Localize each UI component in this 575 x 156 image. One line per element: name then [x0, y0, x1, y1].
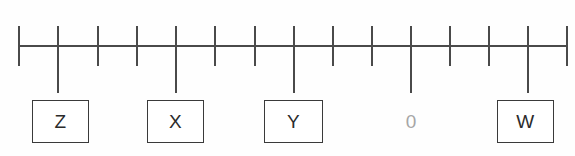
x-label-box-text: X [169, 111, 182, 133]
y-label-box: Y [264, 100, 323, 143]
w-label-box: W [497, 100, 554, 143]
number-line-figure: ZXYW 0 [0, 0, 575, 156]
z-label-box-text: Z [54, 111, 66, 133]
x-label-box: X [147, 100, 204, 143]
w-label-box-text: W [516, 111, 534, 133]
ticks-group [19, 26, 567, 93]
zero-label-text: 0 [406, 111, 417, 133]
z-label-box: Z [32, 100, 89, 143]
y-label-box-text: Y [287, 111, 300, 133]
zero-label: 0 [396, 100, 426, 143]
